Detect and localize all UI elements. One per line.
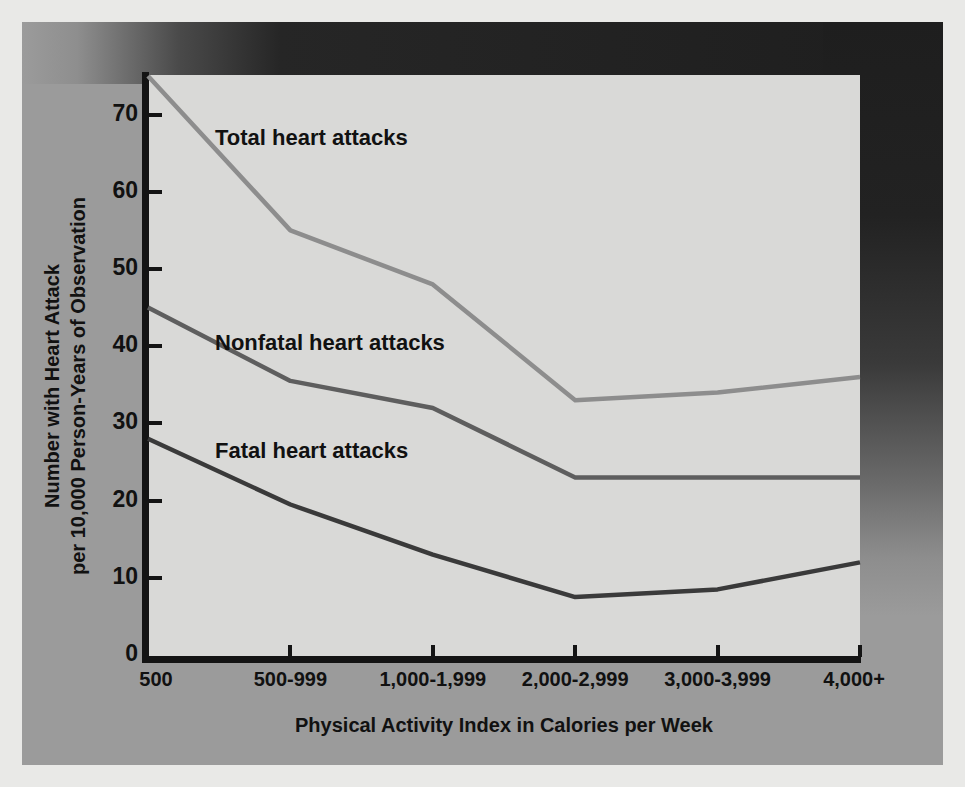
x-axis-title: Physical Activity Index in Calories per … <box>148 714 860 737</box>
series-label-1: Nonfatal heart attacks <box>215 330 445 356</box>
y-axis-title-line-1: Number with Heart Attack <box>39 86 65 686</box>
series-label-0: Total heart attacks <box>215 125 408 151</box>
y-axis-title-line-2: per 10,000 Person-Years of Observation <box>65 86 91 686</box>
series-label-2: Fatal heart attacks <box>215 438 408 464</box>
series-lines <box>0 0 965 787</box>
figure-root: 010203040506070 500500-9991,000-1,9992,0… <box>0 0 965 787</box>
y-axis-title: Number with Heart Attack per 10,000 Pers… <box>39 86 91 686</box>
